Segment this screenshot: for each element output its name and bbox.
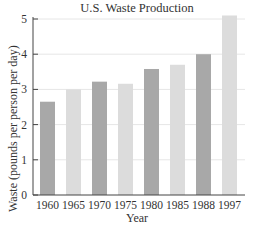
bar-1960 [40, 102, 55, 195]
x-tick-label: 1975 [114, 199, 137, 211]
x-tick-label: 1970 [88, 199, 111, 211]
bar-1997 [222, 15, 237, 195]
x-tick-label: 1965 [62, 199, 85, 211]
x-tick-label: 1985 [166, 199, 189, 211]
gridlines [33, 19, 245, 160]
x-tick-label: 1980 [140, 199, 163, 211]
bar-1980 [144, 69, 159, 195]
x-tick-label: 1997 [218, 199, 241, 211]
y-ticks: 012345 [21, 13, 27, 201]
bar-1975 [118, 84, 133, 195]
y-tick-label: 1 [21, 154, 27, 166]
y-tick-label: 4 [21, 48, 27, 60]
bar-1988 [196, 54, 211, 195]
y-tick-label: 5 [21, 13, 27, 25]
x-ticks: 19601965197019751980198519881997 [36, 199, 241, 211]
y-tick-label: 2 [21, 119, 27, 131]
bar-1985 [170, 65, 185, 195]
x-tick-label: 1988 [192, 199, 215, 211]
y-tick-label: 0 [21, 189, 27, 201]
bar-1965 [66, 89, 81, 195]
bars [40, 15, 237, 195]
bar-chart: 012345 19601965197019751980198519881997 [0, 0, 254, 227]
y-tick-label: 3 [21, 83, 27, 95]
axes [33, 17, 245, 195]
x-tick-label: 1960 [36, 199, 59, 211]
bar-1970 [92, 82, 107, 195]
